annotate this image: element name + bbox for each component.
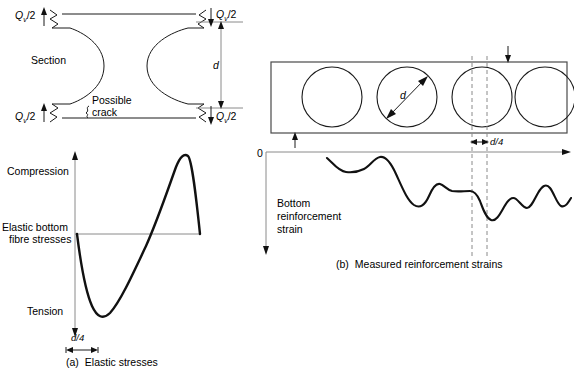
section-left-opening-arc — [70, 28, 104, 104]
force-arrow-top-left-head — [41, 7, 47, 15]
diameter-dimension-line — [389, 79, 425, 116]
force-divisor-bottom-right: /2 — [228, 110, 237, 122]
strain-curve — [327, 157, 571, 220]
panel-b-caption-prefix: (b) — [336, 258, 349, 270]
tension-label: Tension — [27, 305, 63, 317]
possible-crack-label-line1: Possible — [92, 94, 132, 106]
force-symbol-top-left: Q — [15, 9, 23, 21]
force-divisor-top-right: /2 — [228, 8, 237, 20]
section-break-top-left — [50, 10, 62, 28]
force-arrow-top-right-head — [208, 19, 214, 27]
panel-a-caption: (a)Elastic stresses — [66, 356, 158, 368]
elastic-zero-label-line1: Elastic bottom — [2, 221, 68, 233]
elastic-zero-label-line2: fibre stresses — [9, 233, 71, 245]
force-divisor-bottom-left: /2 — [27, 110, 36, 122]
strain-chart: 0 Bottom reinforcement strain (b)Measure… — [257, 147, 571, 270]
panel-a-caption-prefix: (a) — [66, 356, 79, 368]
elastic-stress-curve — [77, 155, 200, 317]
engineering-figure: Section Possible crack d Qv/2 Qv/2 — [0, 0, 574, 369]
elastic-d4-label: d/4 — [71, 332, 84, 343]
strain-y-label-line1: Bottom — [277, 197, 311, 209]
elastic-d4-arrow-left — [66, 347, 73, 353]
elastic-d4-arrow-right — [91, 347, 98, 353]
possible-crack-label-line2: crack — [92, 106, 118, 118]
section-label: Section — [31, 54, 66, 66]
beam-diagram: d d/4 — [271, 46, 574, 256]
section-break-bottom-right — [194, 104, 206, 122]
panel-a-caption-text: Elastic stresses — [85, 356, 158, 368]
panel-b-caption-text: Measured reinforcement strains — [355, 258, 503, 270]
force-label-bottom-right: Qv/2 — [216, 110, 237, 124]
section-break-top-right — [194, 10, 206, 28]
beam-opening-3 — [452, 67, 512, 127]
strain-x-axis-arrow — [562, 149, 571, 155]
beam-opening-4 — [515, 67, 574, 127]
section-diagram: Section Possible crack d Qv/2 Qv/2 — [15, 7, 243, 125]
beam-d4-label: d/4 — [490, 136, 503, 147]
elastic-y-axis-arrow-top — [72, 151, 78, 160]
strain-y-label-line2: reinforcement — [277, 210, 341, 222]
strain-y-axis-arrow — [263, 246, 269, 255]
force-label-top-left: Qv/2 — [15, 9, 36, 23]
panel-b-caption: (b)Measured reinforcement strains — [336, 258, 503, 270]
figure-canvas: Section Possible crack d Qv/2 Qv/2 — [0, 0, 574, 369]
depth-label: d — [213, 59, 220, 71]
crack-brace — [86, 106, 89, 118]
force-symbol-top-right: Q — [216, 8, 224, 20]
force-label-bottom-left: Qv/2 — [15, 110, 36, 124]
section-right-opening-arc — [147, 28, 188, 104]
beam-opening-1 — [302, 67, 362, 127]
elastic-stresses-chart: Compression Tension Elastic bottom fibre… — [2, 151, 200, 368]
strain-y-label-line3: strain — [277, 223, 303, 235]
force-label-top-right: Qv/2 — [216, 8, 237, 22]
force-symbol-bottom-right: Q — [216, 110, 224, 122]
compression-label: Compression — [7, 165, 69, 177]
force-divisor-top-left: /2 — [27, 9, 36, 21]
force-symbol-bottom-left: Q — [15, 110, 23, 122]
force-arrow-bottom-left-head — [41, 103, 47, 111]
strain-origin-label: 0 — [257, 147, 263, 159]
beam-d4-arrow-left — [470, 139, 477, 145]
beam-d4-arrow-right — [482, 139, 489, 145]
force-arrow-bottom-right-head — [208, 117, 214, 125]
